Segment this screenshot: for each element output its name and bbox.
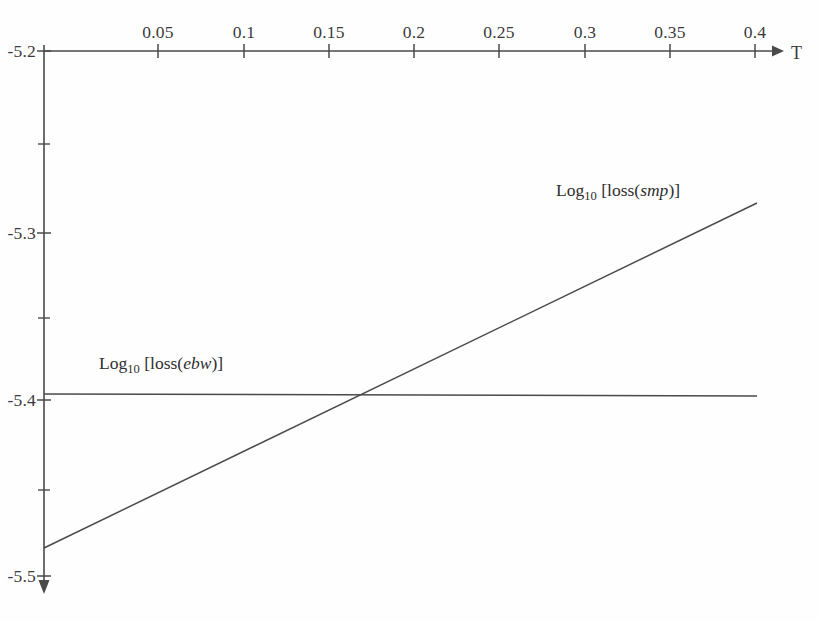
series-label-ebw-variable: ebw — [183, 353, 211, 373]
series-label-ebw: Log10 [loss(ebw)] — [99, 353, 223, 377]
series-label-ebw-subscript: 10 — [127, 362, 140, 376]
plot-canvas — [0, 0, 818, 622]
series-label-ebw-prefix: Log — [99, 353, 127, 373]
series-label-smp-variable: smp — [640, 180, 668, 200]
series-label-smp-subscript: 10 — [584, 189, 597, 203]
series-label-smp-prefix: Log — [556, 180, 584, 200]
y-tick-label-1: -5.3 — [0, 223, 36, 244]
series-label-smp: Log10 [loss(smp)] — [556, 180, 680, 204]
y-tick-label-0: -5.2 — [0, 41, 36, 62]
series-label-smp-suffix: )] — [668, 180, 680, 200]
x-axis-name: T — [791, 43, 802, 64]
x-tick-label-2: 0.15 — [313, 22, 344, 43]
series-label-ebw-mid: [loss( — [140, 353, 183, 373]
x-tick-label-1: 0.1 — [233, 22, 255, 43]
y-tick-label-3: -5.5 — [0, 566, 36, 587]
x-tick-label-3: 0.2 — [403, 22, 425, 43]
series-label-smp-mid: [loss( — [597, 180, 640, 200]
series-label-ebw-suffix: )] — [211, 353, 223, 373]
x-tick-label-0: 0.05 — [142, 22, 173, 43]
x-axis-arrowhead — [772, 46, 784, 57]
x-tick-label-6: 0.35 — [654, 22, 685, 43]
y-axis-arrowhead — [39, 580, 50, 594]
x-tick-label-4: 0.25 — [483, 22, 514, 43]
x-tick-label-7: 0.4 — [744, 22, 766, 43]
series-line-ebw — [44, 394, 757, 396]
x-tick-label-5: 0.3 — [574, 22, 596, 43]
chart-figure: 0.05 0.1 0.15 0.2 0.25 0.3 0.35 0.4 -5.2… — [0, 0, 818, 622]
y-tick-label-2: -5.4 — [0, 390, 36, 411]
